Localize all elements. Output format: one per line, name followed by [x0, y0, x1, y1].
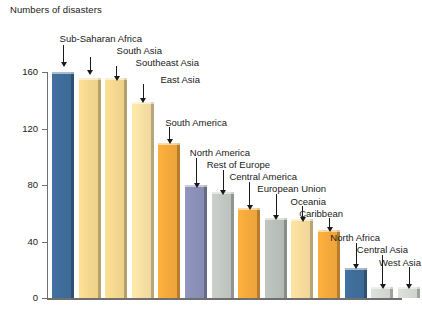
bar-top-highlight [52, 72, 74, 74]
bar-north-america[interactable] [185, 185, 207, 298]
callout-arrow-rest-of-europe [223, 170, 224, 191]
callout-label-south-america: South America [165, 117, 227, 128]
callout-label-central-america: Central America [229, 171, 297, 182]
bar-top-highlight [79, 78, 101, 80]
callout-label-oceania: Oceania [291, 196, 326, 207]
bar-right-bevel [257, 208, 260, 298]
y-axis-tick-label: 40 [0, 236, 38, 247]
callout-label-caribbean: Caribbean [299, 208, 343, 219]
bar-european-union[interactable] [265, 218, 287, 299]
y-axis-tick [42, 298, 47, 299]
callout-label-east-asia: East Asia [160, 74, 200, 85]
callout-arrow-north-america [196, 158, 197, 184]
bar-right-bevel [177, 143, 180, 298]
bar-right-bevel [71, 72, 74, 298]
bar-right-bevel [364, 268, 367, 298]
bar-north-africa[interactable] [345, 268, 367, 298]
bar-right-bevel [231, 192, 234, 298]
bar-right-bevel [124, 78, 127, 298]
callout-arrow-central-america [249, 182, 250, 206]
callout-label-southeast-asia: Southeast Asia [136, 57, 199, 68]
callout-arrow-caribbean [329, 218, 330, 228]
callout-arrow-west-asia [409, 267, 410, 285]
callout-label-west-asia: West Asia [379, 257, 421, 268]
callout-arrow-sub-saharan-africa [63, 45, 64, 63]
bar-oceania[interactable] [291, 219, 313, 298]
y-axis-tick-label: 0 [0, 292, 38, 303]
x-axis-line [47, 298, 402, 300]
y-axis-tick [42, 185, 47, 186]
bar-south-asia[interactable] [79, 78, 101, 298]
bar-right-bevel [284, 218, 287, 299]
bar-right-bevel [151, 102, 154, 298]
callout-label-north-america: North America [190, 147, 250, 158]
plot-area: 04080120160Sub-Saharan AfricaSouth AsiaS… [0, 0, 422, 315]
bar-right-bevel [98, 78, 101, 298]
callout-label-sub-saharan-africa: Sub-Saharan Africa [60, 33, 142, 44]
callout-label-rest-of-europe: Rest of Europe [207, 159, 270, 170]
bar-sub-saharan-africa[interactable] [52, 72, 74, 298]
y-axis-tick-label: 120 [0, 123, 38, 134]
callout-label-central-asia: Central Asia [357, 244, 408, 255]
y-axis-tick-label: 80 [0, 179, 38, 190]
bar-right-bevel [310, 219, 313, 298]
y-axis-tick [42, 129, 47, 130]
bar-east-asia[interactable] [132, 102, 154, 298]
bar-right-bevel [204, 185, 207, 298]
callout-arrow-east-asia [143, 84, 144, 99]
bar-central-america[interactable] [238, 208, 260, 298]
callout-label-european-union: European Union [257, 183, 326, 194]
callout-arrow-south-asia [90, 57, 91, 71]
chart-container: Numbers of disasters 04080120160Sub-Saha… [0, 0, 422, 315]
callout-label-south-asia: South Asia [117, 45, 162, 56]
y-axis-tick-label: 160 [0, 66, 38, 77]
y-axis-line [47, 72, 48, 299]
bar-southeast-asia[interactable] [105, 78, 127, 298]
callout-label-north-africa: North Africa [330, 232, 380, 243]
bar-rest-of-europe[interactable] [212, 192, 234, 298]
callout-arrow-south-america [169, 127, 170, 140]
callout-arrow-southeast-asia [116, 66, 117, 77]
bar-south-america[interactable] [158, 143, 180, 298]
y-axis-tick [42, 242, 47, 243]
callout-arrow-european-union [276, 194, 277, 216]
y-axis-tick [42, 72, 47, 73]
